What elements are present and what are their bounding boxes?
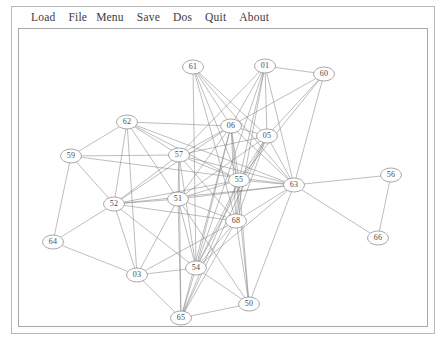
node-label: 54 [192,263,200,272]
graph-edge [82,155,169,156]
graph-edge [193,74,196,261]
node-label: 63 [290,180,298,189]
graph-node[interactable]: 54 [186,261,207,275]
menubar: Load File Menu Save Dos Quit About [12,7,434,28]
menu-item-about[interactable]: About [239,11,269,24]
graph-edge [185,72,260,149]
node-label: 56 [387,170,395,179]
graph-edge [191,306,239,316]
graph-edge [188,159,230,177]
menu-item-menu[interactable]: Menu [96,11,124,24]
graph-edge [76,162,108,198]
graph-edge [244,190,287,216]
node-label: 03 [133,270,141,279]
graph-edge [235,73,262,120]
graph-node[interactable]: 63 [284,178,305,192]
graph-edge [137,122,220,125]
graph-edge [135,127,172,150]
menu-item-quit[interactable]: Quit [205,11,226,24]
graph-edge [379,182,389,231]
graph-edge [79,127,119,152]
graph-edge [179,162,181,311]
graph-edge [267,73,293,178]
graph-node[interactable]: 01 [255,59,276,73]
graph-node[interactable]: 64 [43,235,64,249]
graph-edge [237,73,263,214]
graph-edge [183,275,194,311]
node-label: 60 [320,69,328,78]
graph-node[interactable]: 06 [221,119,242,133]
graph-edge [265,73,267,129]
node-label: 50 [245,299,253,308]
graph-edge [203,273,241,299]
node-label: 06 [227,121,235,130]
graph-node[interactable]: 56 [381,168,402,182]
graph-edge [198,73,289,179]
graph-node[interactable]: 59 [61,149,82,163]
graph-edge [180,162,195,261]
menu-item-save[interactable]: Save [137,11,160,24]
node-label: 64 [49,237,57,246]
graph-edge [197,73,227,119]
graph-edge [116,211,135,268]
graph-node[interactable]: 61 [183,60,204,74]
graph-edge [124,205,225,219]
node-label: 61 [189,62,197,71]
graph-edge [200,143,264,262]
graph-edge [124,186,283,203]
graph-node[interactable]: 52 [104,197,125,211]
graph-edge [304,176,380,184]
graph-edge [124,200,167,203]
graph-edge [275,67,313,72]
graph-node[interactable]: 68 [226,214,247,228]
graph-edge [187,202,227,217]
graph-edge [240,187,249,297]
node-label: 65 [177,313,185,322]
graph-node[interactable]: 03 [127,268,148,282]
graph-edge [239,79,316,122]
graph-node[interactable]: 57 [169,148,190,162]
graph-node[interactable]: 05 [257,129,278,143]
graph-node[interactable]: 66 [368,231,389,245]
node-label: 52 [110,199,118,208]
node-label: 51 [174,194,182,203]
node-label: 05 [263,131,271,140]
node-label: 01 [261,61,269,70]
menu-item-file[interactable]: File [68,11,87,24]
graph-node[interactable]: 51 [168,192,189,206]
graph-edge [188,186,283,198]
graph-drawing[interactable]: 6101606206055957556356525168646603545065 [19,29,427,326]
graph-edge [184,161,231,215]
graph-node[interactable]: 60 [314,67,335,81]
graph-edge [143,281,175,312]
node-label: 55 [235,175,243,184]
graph-node[interactable]: 65 [171,311,192,325]
node-label: 68 [232,216,240,225]
graph-node[interactable]: 55 [229,173,250,187]
node-label: 66 [374,233,382,242]
graph-edge [271,143,291,179]
graph-canvas-frame[interactable]: 6101606206055957556356525168646603545065 [18,28,428,327]
graph-edge [62,246,128,272]
graph-edge [243,142,263,173]
graph-edge [61,209,107,237]
graph-edge [187,130,223,150]
graph-edge [184,187,236,312]
graph-node[interactable]: 50 [239,297,260,311]
graph-edge [184,143,264,312]
graph-edge [178,162,179,192]
graph-edge [296,81,322,178]
graph-edge [302,190,371,233]
graph-edge [272,80,318,130]
graph-edge [141,206,175,269]
menu-item-load[interactable]: Load [31,11,55,24]
graph-node[interactable]: 62 [117,115,138,129]
application-window: Load File Menu Save Dos Quit About 61016… [11,6,435,334]
node-label: 59 [67,151,75,160]
node-label: 62 [123,117,131,126]
graph-edge [198,133,230,261]
node-label: 57 [175,150,183,159]
graph-edge [127,129,136,268]
graph-edge [54,163,69,235]
menu-item-dos[interactable]: Dos [173,11,192,24]
